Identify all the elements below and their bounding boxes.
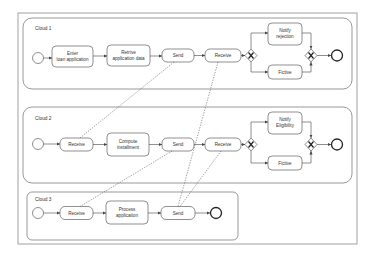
- task-notify-rejection[interactable]: Notify rejection: [268, 23, 302, 45]
- task-fictive-cloud-2[interactable]: Fictive: [268, 156, 302, 170]
- svg-text:Eligibility: Eligibility: [276, 123, 295, 128]
- end-event-icon: [332, 50, 343, 61]
- svg-text:Send: Send: [173, 142, 184, 147]
- svg-text:Enter: Enter: [67, 51, 78, 56]
- task-send-cloud-1[interactable]: Send: [162, 49, 194, 62]
- svg-text:Fictive: Fictive: [278, 70, 292, 75]
- svg-text:Compute: Compute: [119, 139, 138, 144]
- task-compute-installment[interactable]: Compute installment: [107, 133, 149, 156]
- svg-text:application: application: [116, 213, 138, 218]
- task-send-cloud-3[interactable]: Send: [161, 207, 195, 220]
- task-retrive-application-data[interactable]: Retrive application data: [107, 45, 150, 66]
- svg-text:Receive: Receive: [215, 53, 232, 58]
- pool-cloud-3-label: Cloud 3: [35, 197, 52, 202]
- svg-text:Send: Send: [173, 53, 184, 58]
- end-event-icon: [332, 139, 343, 150]
- svg-text:Send: Send: [173, 211, 184, 216]
- bpmn-diagram: Cloud 1 Enter loan application Retrive a…: [0, 0, 374, 254]
- svg-text:Receive: Receive: [68, 142, 85, 147]
- pool-cloud-1-label: Cloud 1: [35, 26, 52, 31]
- svg-text:application data: application data: [112, 56, 145, 61]
- svg-text:rejection: rejection: [276, 34, 294, 39]
- svg-text:Fictive: Fictive: [278, 161, 292, 166]
- task-send-cloud-2[interactable]: Send: [162, 138, 194, 151]
- end-event-icon: [211, 208, 222, 219]
- task-receive-2-cloud-2[interactable]: Receive: [205, 138, 241, 151]
- svg-text:Retrive: Retrive: [121, 50, 136, 55]
- svg-text:loan application: loan application: [57, 57, 89, 62]
- pool-cloud-2-label: Cloud 2: [35, 116, 52, 121]
- task-fictive-cloud-1[interactable]: Fictive: [268, 65, 302, 79]
- svg-text:Process: Process: [119, 207, 136, 212]
- svg-text:Receive: Receive: [68, 211, 85, 216]
- svg-text:Notify: Notify: [279, 28, 291, 33]
- task-receive-cloud-1[interactable]: Receive: [205, 49, 241, 62]
- svg-text:installment: installment: [117, 145, 140, 150]
- task-receive-cloud-2[interactable]: Receive: [60, 138, 93, 151]
- start-event-icon: [33, 208, 44, 219]
- start-event-icon: [33, 139, 44, 150]
- task-process-application[interactable]: Process application: [106, 201, 148, 224]
- start-event-icon: [33, 53, 44, 64]
- task-notify-eligibility[interactable]: Notify Eligibility: [268, 112, 302, 134]
- task-receive-cloud-3[interactable]: Receive: [60, 207, 93, 220]
- svg-text:Notify: Notify: [279, 117, 291, 122]
- svg-text:Receive: Receive: [215, 142, 232, 147]
- task-enter-loan-application[interactable]: Enter loan application: [52, 46, 93, 67]
